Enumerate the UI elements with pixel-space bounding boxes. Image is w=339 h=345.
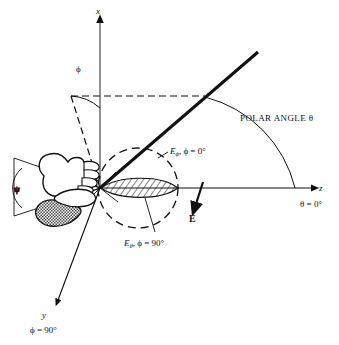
figure-canvas: x z θ = 0° y ϕ = 90° ϕ POLAR ANGLE θ E: [0, 0, 339, 345]
e-field-label: E: [189, 213, 196, 224]
coordinate-system-diagram: x z θ = 0° y ϕ = 90° ϕ POLAR ANGLE θ E: [0, 0, 339, 345]
z-axis-label: z: [318, 183, 323, 193]
e-theta-label: Eθ, ϕ = 90°: [123, 238, 165, 249]
polar-angle-label: POLAR ANGLE θ: [240, 113, 314, 123]
direction-ray: [100, 52, 258, 188]
y-axis-sublabel: ϕ = 90°: [30, 325, 57, 335]
hatched-lens: [101, 178, 178, 197]
psi-arc-label: ψ: [14, 184, 20, 194]
polar-angle-arc: POLAR ANGLE θ: [205, 97, 314, 188]
phi-arc-path: [71, 96, 100, 108]
x-axis-label: x: [95, 6, 100, 16]
theta-arc-path: [205, 97, 295, 188]
e-phi-label: Eϕ, ϕ = 0°: [169, 146, 206, 157]
e-phi-leader: Eϕ, ϕ = 0°: [158, 146, 206, 158]
z-axis-sublabel: θ = 0°: [300, 199, 322, 209]
phi-arc-label: ϕ: [76, 64, 81, 74]
axis-x: x: [95, 6, 100, 188]
e-field-arrow: [196, 182, 203, 204]
ray-line: [100, 52, 258, 188]
phi-angle-arc: ϕ: [71, 64, 100, 108]
e-theta-leader: Eθ, ϕ = 90°: [123, 198, 165, 249]
e-theta-pattern-lens: [101, 178, 178, 197]
e-theta-rest: , ϕ = 90°: [133, 238, 165, 248]
e-phi-rest: , ϕ = 0°: [179, 146, 206, 156]
y-axis-label: y: [41, 310, 46, 320]
